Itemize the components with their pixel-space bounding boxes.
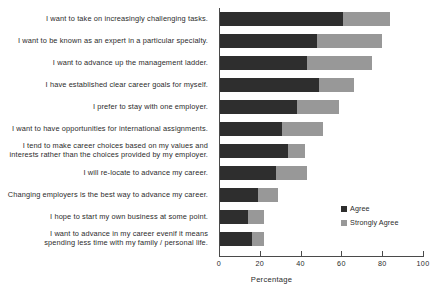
legend-swatch-icon bbox=[341, 206, 347, 212]
bar-segment-agree[interactable] bbox=[219, 144, 288, 158]
bar-row-label: I tend to make career choices based on m… bbox=[0, 142, 214, 159]
x-axis-title: Percentage bbox=[0, 275, 439, 284]
x-axis-tick-label: 20 bbox=[255, 259, 264, 268]
legend-swatch-icon bbox=[341, 220, 347, 226]
bar-row-label: I will re-locate to advance my career. bbox=[0, 169, 214, 178]
x-axis-tick bbox=[260, 251, 261, 257]
bar-segment-agree[interactable] bbox=[219, 56, 307, 70]
bar-row-label: I want to take on increasingly challengi… bbox=[0, 15, 214, 24]
chart-legend: AgreeStrongly Agree bbox=[341, 204, 399, 232]
stacked-bar[interactable] bbox=[219, 210, 264, 224]
stacked-bar[interactable] bbox=[219, 78, 354, 92]
bar-row-label: I prefer to stay with one employer. bbox=[0, 103, 214, 112]
legend-label: Agree bbox=[350, 204, 370, 213]
bar-track bbox=[214, 206, 439, 228]
stacked-bar[interactable] bbox=[219, 122, 323, 136]
bar-segment-strongly-agree[interactable] bbox=[319, 78, 354, 92]
bar-segment-agree[interactable] bbox=[219, 34, 317, 48]
bar-track bbox=[214, 118, 439, 140]
bar-row-label: I want to have opportunities for interna… bbox=[0, 125, 214, 134]
bar-row-label: I have established clear career goals fo… bbox=[0, 81, 214, 90]
stacked-bar-chart: I want to take on increasingly challengi… bbox=[0, 0, 439, 297]
x-axis-tick-label: 40 bbox=[296, 259, 305, 268]
bar-segment-strongly-agree[interactable] bbox=[307, 56, 372, 70]
stacked-bar[interactable] bbox=[219, 56, 372, 70]
bar-row-label: I want to be known as an expert in a par… bbox=[0, 37, 214, 46]
bar-segment-agree[interactable] bbox=[219, 122, 282, 136]
bar-segment-strongly-agree[interactable] bbox=[276, 166, 307, 180]
bar-row-label: Changing employers is the best way to ad… bbox=[0, 191, 214, 200]
stacked-bar[interactable] bbox=[219, 144, 305, 158]
bar-segment-strongly-agree[interactable] bbox=[248, 210, 264, 224]
bar-segment-agree[interactable] bbox=[219, 166, 276, 180]
x-axis-tick bbox=[341, 251, 342, 257]
stacked-bar[interactable] bbox=[219, 188, 278, 202]
bar-row-label: I hope to start my own business at some … bbox=[0, 213, 214, 222]
legend-label: Strongly Agree bbox=[350, 218, 399, 227]
chart-page: I want to take on increasingly challengi… bbox=[0, 0, 439, 297]
stacked-bar[interactable] bbox=[219, 34, 382, 48]
bar-track bbox=[214, 30, 439, 52]
bar-segment-strongly-agree[interactable] bbox=[282, 122, 323, 136]
bar-segment-strongly-agree[interactable] bbox=[258, 188, 278, 202]
x-axis-tick bbox=[382, 251, 383, 257]
bar-track bbox=[214, 96, 439, 118]
bar-segment-agree[interactable] bbox=[219, 12, 343, 26]
bar-track bbox=[214, 162, 439, 184]
bar-segment-strongly-agree[interactable] bbox=[317, 34, 382, 48]
bar-track bbox=[214, 184, 439, 206]
bar-track bbox=[214, 140, 439, 162]
bar-segment-strongly-agree[interactable] bbox=[288, 144, 304, 158]
bar-segment-agree[interactable] bbox=[219, 210, 248, 224]
x-axis-tick bbox=[219, 251, 220, 257]
bar-row-label: I want to advance up the management ladd… bbox=[0, 59, 214, 68]
bar-segment-agree[interactable] bbox=[219, 100, 297, 114]
legend-item[interactable]: Agree bbox=[341, 204, 399, 213]
x-axis-tick bbox=[301, 251, 302, 257]
stacked-bar[interactable] bbox=[219, 232, 264, 246]
bar-track bbox=[214, 8, 439, 30]
bar-track bbox=[214, 52, 439, 74]
bar-segment-agree[interactable] bbox=[219, 232, 252, 246]
x-axis-tick bbox=[423, 251, 424, 257]
bar-segment-agree[interactable] bbox=[219, 188, 258, 202]
x-axis-tick-label: 80 bbox=[378, 259, 387, 268]
x-axis-tick-label: 0 bbox=[217, 259, 221, 268]
bar-segment-strongly-agree[interactable] bbox=[252, 232, 264, 246]
stacked-bar[interactable] bbox=[219, 100, 339, 114]
y-axis-line bbox=[219, 8, 220, 256]
x-axis-line bbox=[219, 256, 424, 257]
bar-track bbox=[214, 74, 439, 96]
bar-row-label: I want to advance in my career evenif it… bbox=[0, 230, 214, 247]
stacked-bar[interactable] bbox=[219, 166, 307, 180]
stacked-bar[interactable] bbox=[219, 12, 390, 26]
x-axis-tick-label: 60 bbox=[337, 259, 346, 268]
bar-segment-strongly-agree[interactable] bbox=[343, 12, 390, 26]
bar-segment-strongly-agree[interactable] bbox=[297, 100, 340, 114]
bar-track bbox=[214, 228, 439, 250]
bar-segment-agree[interactable] bbox=[219, 78, 319, 92]
x-axis-tick-label: 100 bbox=[417, 259, 430, 268]
legend-item[interactable]: Strongly Agree bbox=[341, 218, 399, 227]
